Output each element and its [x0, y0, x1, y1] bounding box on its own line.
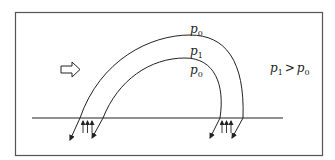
inner-field-line [103, 58, 221, 118]
right-outer-field-arrow [232, 118, 243, 138]
diagram-frame [16, 13, 323, 156]
label-p0-outer: p0 [190, 22, 203, 38]
left-upflow-arrows [83, 121, 92, 133]
diagram-canvas: p0 p1 p0 p1>p0 [0, 0, 335, 160]
pressure-relation: p1>p0 [270, 61, 310, 77]
left-inner-field-arrow [92, 118, 103, 138]
right-inner-field-arrow [210, 118, 220, 138]
right-upflow-arrows [222, 121, 231, 133]
left-outer-field-arrow [70, 118, 80, 140]
label-p1-inside: p1 [190, 44, 203, 60]
label-p0-inner: p0 [190, 63, 203, 79]
outer-field-line [80, 35, 243, 118]
hollow-right-arrow-icon [61, 62, 80, 77]
